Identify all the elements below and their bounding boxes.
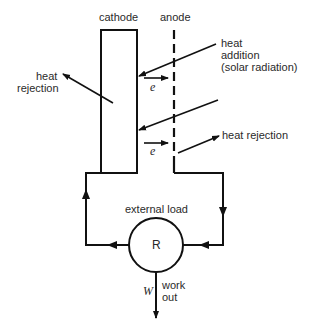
work-out-label-2: out <box>162 291 177 303</box>
heat-rejection-left-arrow <box>63 74 113 103</box>
right-wire-down-arrow-icon <box>219 207 227 217</box>
heat-rejection-right-arrow <box>178 136 219 153</box>
right-bottom-arrow-icon <box>199 241 209 249</box>
thermionic-converter-diagram <box>0 0 313 325</box>
left-bottom-arrow-icon <box>107 241 117 249</box>
work-out-label-1: work <box>162 279 185 291</box>
left-wire-up-arrow-icon <box>82 189 90 199</box>
cathode-electrode <box>101 30 137 173</box>
heat-addition-label-1: heat <box>221 37 242 49</box>
resistor-label: R <box>152 239 161 251</box>
external-load-label: external load <box>125 203 188 215</box>
heat-rejection-left-label-2: rejection <box>17 82 59 94</box>
cathode-label: cathode <box>99 11 138 23</box>
heat-addition-label-2: addition <box>221 49 260 61</box>
electron-label-1: e <box>150 81 155 93</box>
electron-label-2: e <box>150 145 155 157</box>
heat-rejection-right-label: heat rejection <box>222 129 288 141</box>
left-wire <box>86 173 129 245</box>
heat-addition-arrow-1 <box>139 44 216 76</box>
work-symbol-label: W <box>143 285 153 297</box>
heat-addition-arrow-2 <box>139 100 218 130</box>
anode-label: anode <box>160 11 191 23</box>
heat-addition-label-3: (solar radiation) <box>221 61 297 73</box>
heat-rejection-left-label-1: heat <box>36 70 57 82</box>
